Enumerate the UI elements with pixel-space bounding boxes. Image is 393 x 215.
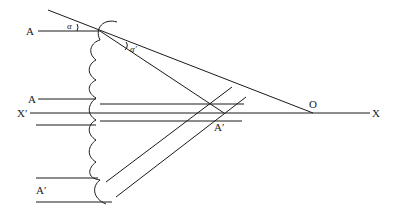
label-A-prime-bottom: A′ [36,184,46,196]
refracted-ray [100,31,224,113]
label-alpha-prime: α′ [130,44,138,54]
label-O: O [309,98,317,110]
oblique-beam-lower [116,97,246,197]
label-alpha: α [67,21,72,31]
ray-diagram: A α α′ A X′ A′ A′ O X [0,0,393,215]
label-X: X [372,107,380,119]
oblique-ray-to-O [48,10,313,113]
label-A-mid: A [28,93,36,105]
label-A-prime-center: A′ [214,121,224,133]
alpha-angle-arc [77,24,78,31]
label-A-top: A [26,25,34,37]
oblique-beam-upper [106,87,232,182]
label-X-prime: X′ [17,107,27,119]
